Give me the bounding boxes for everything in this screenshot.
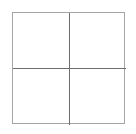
grid-cell-top-right[interactable] — [70, 13, 126, 68]
grid-divider-vertical — [69, 13, 70, 125]
drawing-canvas — [0, 0, 136, 134]
grid-square-outline[interactable] — [12, 12, 125, 124]
grid-cell-bottom-right[interactable] — [70, 69, 126, 125]
grid-cell-top-left[interactable] — [13, 13, 69, 68]
grid-divider-horizontal — [13, 68, 126, 69]
grid-cell-bottom-left[interactable] — [13, 69, 69, 125]
